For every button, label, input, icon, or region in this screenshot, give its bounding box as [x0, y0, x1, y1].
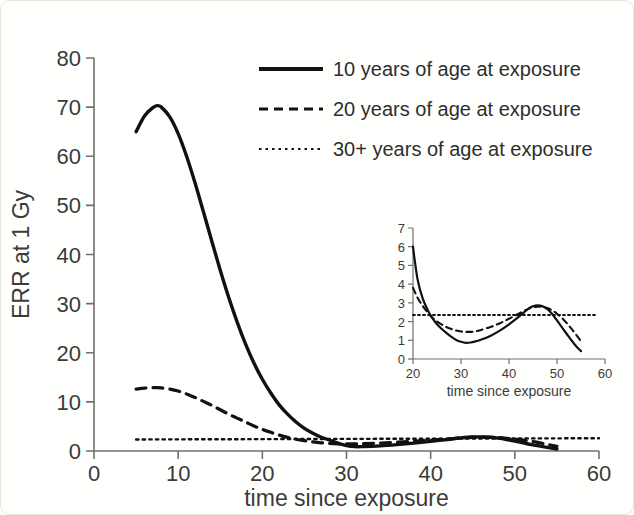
x-tick-label: 30	[454, 366, 468, 381]
x-tick-label: 20	[406, 366, 420, 381]
y-tick-label: 4	[398, 277, 405, 292]
y-tick-label: 80	[57, 46, 81, 71]
y-tick-label: 3	[398, 296, 405, 311]
legend-group: 10 years of age at exposure20 years of a…	[259, 58, 593, 160]
x-tick-label: 50	[503, 461, 527, 486]
x-axis-title: time since exposure	[447, 383, 572, 399]
x-tick-label: 60	[587, 461, 611, 486]
y-tick-label: 2	[398, 315, 405, 330]
legend-label: 20 years of age at exposure	[333, 98, 581, 120]
y-tick-label: 20	[57, 341, 81, 366]
x-tick-label: 0	[88, 461, 100, 486]
x-tick-label: 40	[418, 461, 442, 486]
y-tick-label: 50	[57, 193, 81, 218]
y-tick-label: 10	[57, 390, 81, 415]
series-line-dotted	[136, 438, 599, 439]
x-tick-label: 60	[598, 366, 612, 381]
chart-canvas: 010203040506070800102030405060time since…	[1, 1, 634, 515]
y-tick-label: 7	[398, 221, 405, 236]
y-tick-label: 0	[69, 439, 81, 464]
legend-label: 30+ years of age at exposure	[333, 138, 593, 160]
y-tick-label: 5	[398, 258, 405, 273]
y-tick-label: 6	[398, 240, 405, 255]
y-tick-label: 40	[57, 243, 81, 268]
x-tick-label: 40	[502, 366, 516, 381]
x-tick-label: 30	[334, 461, 358, 486]
y-tick-label: 70	[57, 95, 81, 120]
legend-label: 10 years of age at exposure	[333, 58, 581, 80]
x-tick-label: 50	[550, 366, 564, 381]
inset-plot-group: 012345672030405060time since exposure	[383, 215, 613, 401]
y-tick-label: 0	[398, 352, 405, 367]
x-tick-label: 20	[250, 461, 274, 486]
y-tick-label: 1	[398, 333, 405, 348]
figure-panel: 010203040506070800102030405060time since…	[0, 0, 634, 515]
y-tick-label: 60	[57, 144, 81, 169]
y-tick-label: 30	[57, 292, 81, 317]
x-axis-title: time since exposure	[244, 485, 449, 511]
y-axis-title: ERR at 1 Gy	[8, 189, 34, 319]
x-tick-label: 10	[166, 461, 190, 486]
